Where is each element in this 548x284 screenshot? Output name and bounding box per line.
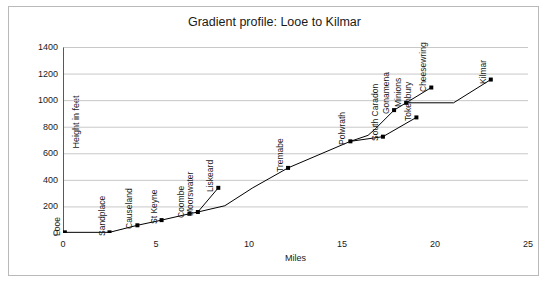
data-point-marker (135, 223, 139, 227)
y-axis-tick-label: 400 (43, 175, 58, 185)
x-axis-tick-label: 10 (244, 239, 254, 249)
station-label: Causeland (124, 189, 134, 230)
x-axis-label: Miles (63, 253, 528, 263)
station-label: Tokenbury (403, 82, 413, 121)
data-point-marker (196, 210, 200, 214)
x-axis-tick-label: 20 (430, 239, 440, 249)
station-label: Looe (52, 217, 62, 236)
data-point-marker (489, 78, 493, 82)
data-point-marker (392, 108, 396, 112)
data-point-marker (286, 166, 290, 170)
x-axis-tick-label: 15 (337, 239, 347, 249)
chart-frame: Gradient profile: Looe to Kilmar Height … (8, 6, 539, 276)
station-label: South Caradon (370, 83, 380, 140)
y-axis-tick-label: 1400 (38, 42, 58, 52)
station-label: Minions (393, 78, 403, 107)
chart-title: Gradient profile: Looe to Kilmar (9, 15, 540, 29)
station-label: Gonamena (381, 72, 391, 114)
station-label: Moorswater (185, 172, 195, 216)
station-label: Polwrath (337, 112, 347, 145)
station-label: Kilmar (478, 59, 488, 83)
y-axis-tick-label: 1000 (38, 95, 58, 105)
data-point-marker (108, 230, 112, 233)
y-axis-tick-label: 800 (43, 122, 58, 132)
plot-region: Height in feet Miles 0200400600800100012… (63, 47, 528, 233)
data-point-marker (381, 135, 385, 139)
data-point-marker (63, 230, 67, 233)
data-point-marker (414, 115, 418, 119)
x-axis-tick-label: 25 (523, 239, 533, 249)
y-axis-tick-label: 600 (43, 148, 58, 158)
x-axis-tick-label: 0 (60, 239, 65, 249)
data-point-marker (160, 218, 164, 222)
data-point-marker (348, 139, 352, 143)
station-label: St Keyne (149, 190, 159, 225)
x-axis-tick-label: 5 (153, 239, 158, 249)
station-label: Sandplace (97, 196, 107, 236)
station-label: Tremabe (275, 138, 285, 172)
data-point-marker (216, 186, 220, 190)
station-label: Cheesewring (418, 42, 428, 92)
station-label: Liskeard (205, 160, 215, 192)
y-axis-tick-label: 200 (43, 201, 58, 211)
y-axis-tick-label: 1200 (38, 69, 58, 79)
